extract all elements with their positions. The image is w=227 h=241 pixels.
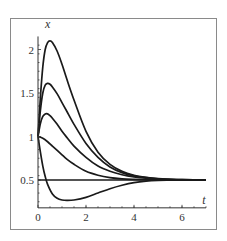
chart: 02460.511.52tx (0, 0, 227, 241)
y-tick-label: 2 (29, 44, 35, 56)
y-axis-label: x (44, 17, 51, 31)
chart-series (38, 41, 206, 201)
y-tick-label: 0.5 (20, 174, 34, 186)
series-curve-5 (38, 137, 206, 201)
chart-frame (11, 19, 217, 230)
series-curve-1 (38, 41, 206, 180)
x-tick-label: 4 (131, 211, 137, 223)
x-tick-label: 6 (179, 211, 185, 223)
series-curve-3 (38, 114, 206, 180)
x-tick-label: 0 (35, 211, 41, 223)
x-axis-label: t (202, 193, 206, 207)
x-tick-label: 2 (83, 211, 89, 223)
y-tick-label: 1.5 (20, 87, 34, 99)
y-tick-label: 1 (29, 131, 35, 143)
chart-axes: 02460.511.52tx (20, 17, 206, 223)
